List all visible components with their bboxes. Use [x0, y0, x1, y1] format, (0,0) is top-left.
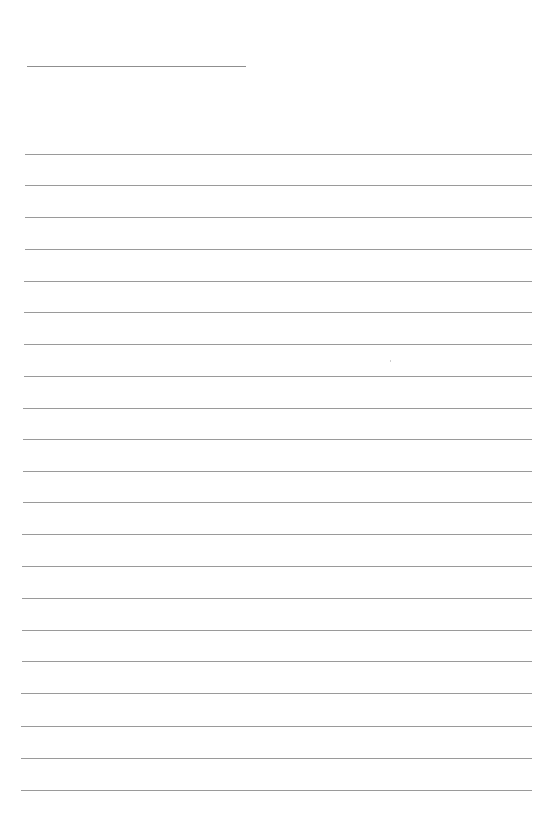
scan-speck	[390, 360, 391, 362]
writing-line	[25, 185, 532, 186]
writing-line	[22, 630, 532, 631]
writing-line	[23, 408, 532, 409]
title-line	[27, 66, 246, 67]
writing-line	[23, 502, 532, 503]
writing-line	[21, 726, 532, 727]
lined-paper-sheet	[0, 0, 547, 828]
writing-line	[22, 661, 532, 662]
writing-line	[25, 217, 532, 218]
writing-line	[24, 281, 532, 282]
writing-line	[24, 344, 532, 345]
writing-line	[23, 439, 532, 440]
writing-line	[22, 534, 532, 535]
writing-line	[21, 790, 532, 791]
writing-line	[23, 471, 532, 472]
writing-line	[24, 312, 532, 313]
writing-line	[25, 154, 532, 155]
writing-line	[24, 376, 532, 377]
writing-line	[22, 566, 532, 567]
writing-line	[22, 598, 532, 599]
writing-line	[21, 693, 532, 694]
writing-line	[21, 758, 532, 759]
writing-line	[25, 249, 532, 250]
